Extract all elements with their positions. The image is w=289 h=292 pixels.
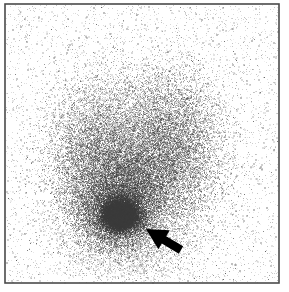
scintigram-image [0,0,289,292]
scintigram-figure [0,0,289,292]
